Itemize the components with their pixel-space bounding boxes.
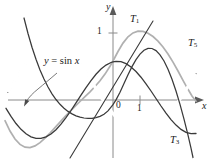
y-axis	[110, 6, 117, 158]
function-label: y = sin x	[44, 56, 79, 67]
sine-label-leader	[24, 73, 57, 107]
t3-label: T3	[170, 135, 179, 146]
t1-subscript: 1	[136, 17, 140, 25]
curve-t5	[5, 31, 196, 147]
x-tick-label-1: 1	[137, 104, 142, 114]
taylor-polynomial-figure: y x 0 1 1 y = sin x T1 T5 T3	[0, 0, 214, 162]
function-label-x: x	[75, 55, 80, 66]
t1-label: T1	[130, 14, 139, 25]
t5-subscript: 5	[194, 41, 198, 49]
x-axis-label: x	[202, 101, 206, 111]
curve-t3	[24, 18, 193, 158]
t3-subscript: 3	[176, 138, 180, 146]
y-axis-label: y	[106, 2, 110, 12]
t5-label: T5	[188, 38, 197, 49]
graph-canvas	[0, 0, 214, 162]
function-label-equals: = sin	[49, 55, 75, 66]
curve-t1	[70, 21, 153, 158]
origin-label: 0	[116, 101, 121, 111]
y-tick-label-1: 1	[97, 27, 102, 37]
